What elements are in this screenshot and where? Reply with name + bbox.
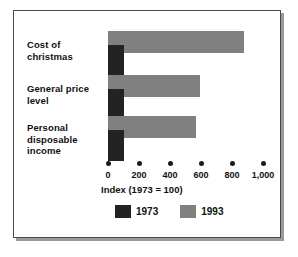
category-label-line: General price (27, 83, 89, 94)
legend-item-1973: 1973 (115, 205, 158, 218)
category-label-line: Personal (27, 122, 68, 133)
legend-item-1993: 1993 (180, 205, 223, 218)
plot-area: Cost ofchristmas General pricelevel Pers… (14, 11, 280, 237)
chart-figure: Cost ofchristmas General pricelevel Pers… (0, 0, 298, 257)
x-axis-tick-dot-icon (168, 161, 173, 166)
legend-swatch-1993-icon (180, 205, 196, 218)
category-label-line: level (27, 95, 49, 106)
x-axis-tick-dot-icon (261, 161, 266, 166)
chart-frame: Cost ofchristmas General pricelevel Pers… (13, 10, 281, 238)
legend-swatch-1973-icon (115, 205, 131, 218)
x-axis-tick-label: 1,000 (252, 170, 275, 180)
x-axis-title: Index (1973 = 100) (101, 184, 183, 195)
bar-1973-personal-disposable-income (108, 130, 124, 161)
legend-label-1973: 1973 (136, 206, 158, 217)
x-axis-tick-dot-icon (230, 161, 235, 166)
category-label-personal-disposable-income: Personaldisposableincome (27, 122, 111, 157)
x-axis-tick-label: 600 (193, 170, 208, 180)
x-axis-tick-label: 200 (131, 170, 146, 180)
category-label-general-price-level: General pricelevel (27, 83, 111, 106)
x-axis-tick-label: 0 (105, 170, 110, 180)
x-axis-tick-dot-icon (137, 161, 142, 166)
legend-label-1993: 1993 (201, 206, 223, 217)
category-label-cost-of-christmas: Cost ofchristmas (27, 39, 111, 62)
category-label-line: disposable (27, 134, 78, 145)
chart-legend: 1973 1993 (115, 205, 224, 218)
x-axis-tick-label: 400 (162, 170, 177, 180)
bar-1993-cost-of-christmas (108, 31, 244, 53)
category-label-line: christmas (27, 51, 73, 62)
x-axis-tick-dot-icon (199, 161, 204, 166)
category-label-line: income (27, 145, 61, 156)
x-axis-tick-dot-icon (106, 161, 111, 166)
x-axis-tick-label: 800 (224, 170, 239, 180)
bar-1973-cost-of-christmas (108, 45, 124, 76)
category-label-line: Cost of (27, 39, 60, 50)
